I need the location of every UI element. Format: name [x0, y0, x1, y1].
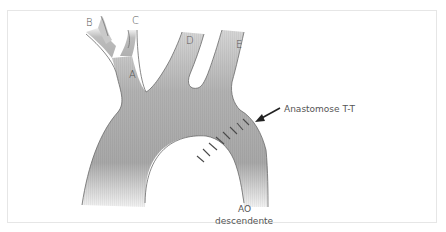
label-a: A [129, 69, 136, 80]
anastomosis-arrow [255, 108, 280, 122]
label-d: D [186, 35, 194, 46]
label-b: B [86, 17, 93, 28]
label-anastomosis: Anastomose T-T [284, 104, 356, 114]
label-c: C [132, 15, 139, 26]
label-ao: AO [238, 204, 251, 214]
aortic-arch-diagram: B C A D E Anastomose T-T AO descendente [0, 0, 446, 232]
label-e: E [236, 39, 242, 50]
label-descendente: descendente [215, 216, 274, 226]
